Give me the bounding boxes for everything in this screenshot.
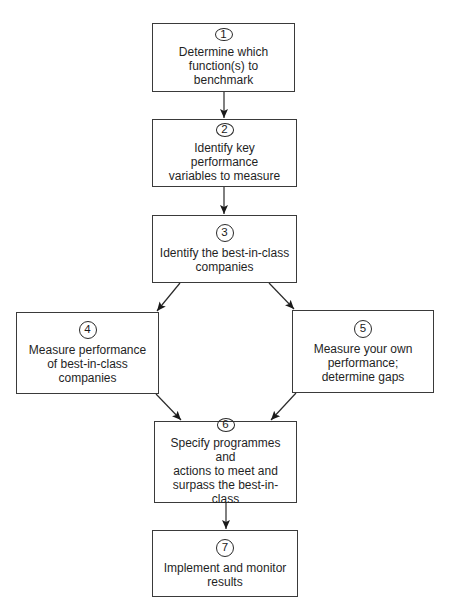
step-7-text: Implement and monitor results bbox=[164, 561, 287, 589]
step-6-text: Specify programmes and actions to meet a… bbox=[161, 436, 290, 506]
step-3-number: 3 bbox=[216, 224, 234, 242]
step-1-number: 1 bbox=[215, 28, 233, 42]
step-1-box: 1 Determine which function(s) to benchma… bbox=[152, 23, 295, 92]
step-2-number: 2 bbox=[216, 123, 234, 137]
step-4-number: 4 bbox=[79, 321, 97, 339]
step-1-text: Determine which function(s) to benchmark bbox=[159, 45, 288, 87]
step-4-text: Measure performance of best-in-class com… bbox=[29, 343, 146, 385]
step-7-box: 7 Implement and monitor results bbox=[152, 530, 298, 597]
step-2-box: 2 Identify key performance variables to … bbox=[152, 119, 297, 187]
arrow-3-to-5 bbox=[269, 283, 294, 309]
step-4-box: 4 Measure performance of best-in-class c… bbox=[16, 312, 159, 394]
step-3-box: 3 Identify the best-in-class companies bbox=[152, 215, 297, 283]
step-5-text: Measure your own performance; determine … bbox=[314, 342, 413, 384]
step-3-text: Identify the best-in-class companies bbox=[160, 246, 289, 274]
arrow-3-to-4 bbox=[157, 283, 180, 311]
step-2-text: Identify key performance variables to me… bbox=[159, 141, 290, 183]
step-6-number: 6 bbox=[217, 418, 235, 432]
step-5-box: 5 Measure your own performance; determin… bbox=[292, 310, 434, 393]
step-7-number: 7 bbox=[216, 539, 234, 557]
step-6-box: 6 Specify programmes and actions to meet… bbox=[154, 421, 297, 503]
arrow-4-to-6 bbox=[156, 394, 181, 420]
step-5-number: 5 bbox=[354, 320, 372, 338]
benchmarking-flowchart: 1 Determine which function(s) to benchma… bbox=[0, 0, 451, 609]
arrow-5-to-6 bbox=[271, 393, 296, 420]
